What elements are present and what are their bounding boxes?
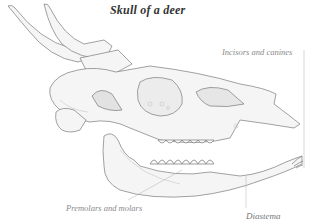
label-premolars-molars: Premolars and molars (66, 203, 142, 213)
orbit (137, 77, 182, 116)
label-diastema: Diastema (246, 211, 281, 221)
label-incisors-canines: Incisors and canines (222, 47, 292, 57)
deer-skull-illustration (0, 0, 310, 222)
lower-molars (150, 160, 214, 164)
